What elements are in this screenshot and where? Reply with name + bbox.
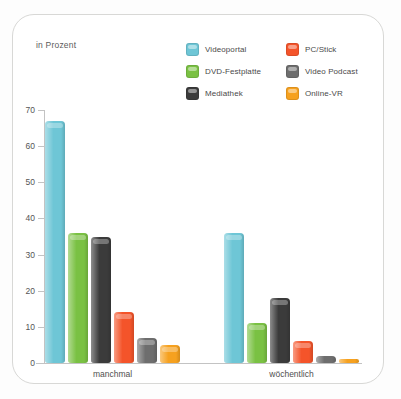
bar-manchmal-videoportal [45,121,65,363]
bar-wöchentlich-online-vr [339,359,359,363]
bar-manchmal-mediathek [91,237,111,364]
legend-item-dvd_festplatte: DVD-Festplatte [186,60,280,82]
bar-shadow [84,233,88,363]
x-axis-label-wöchentlich: wöchentlich [269,369,313,379]
legend-item-pc_stick: PC/Stick [286,38,380,60]
bar-shadow [263,323,267,363]
bar-manchmal-dvd-festplatte [68,233,88,363]
y-tick-mark [38,363,45,364]
bar-highlight [247,323,255,363]
legend-swatch-icon-online_vr [286,87,299,100]
unit-label: in Prozent [36,40,76,50]
y-tick-label: 60 [26,141,35,151]
bar-manchmal-pc-stick [114,312,134,363]
x-axis-label-manchmal: manchmal [93,369,132,379]
bar-shadow [309,341,313,363]
bar-cap [93,239,109,244]
y-tick-label: 30 [26,250,35,260]
bar-shadow [61,121,65,363]
chart-page: in Prozent VideoportalPC/StickDVD-Festpl… [0,0,401,399]
bar-wöchentlich-pc-stick [293,341,313,363]
bar-cap [162,347,178,352]
legend-swatch-icon-pc_stick [286,43,299,56]
bar-series-container [44,110,362,363]
legend-swatch-icon-mediathek [186,87,199,100]
bar-cap [226,235,242,240]
bar-shadow [332,356,336,363]
bar-shadow [153,338,157,363]
bar-shadow [240,233,244,363]
bar-shadow [355,359,359,363]
bar-wöchentlich-videoportal [224,233,244,363]
legend-item-video_podcast: Video Podcast [286,60,380,82]
legend-label: Video Podcast [305,67,358,76]
bar-highlight [160,345,168,363]
bar-highlight [270,298,278,363]
bar-manchmal-online-vr [160,345,180,363]
bar-cap [70,235,86,240]
bar-highlight [224,233,232,363]
legend-swatch-icon-dvd_festplatte [186,65,199,78]
legend-swatch-icon-video_podcast [286,65,299,78]
bar-cap [116,314,132,319]
bar-highlight [137,338,145,363]
legend-item-videoportal: Videoportal [186,38,280,60]
y-tick-label: 50 [26,177,35,187]
bar-cap [295,343,311,348]
bar-manchmal-video-podcast [137,338,157,363]
bar-highlight [293,341,301,363]
legend-label: Online-VR [305,89,343,98]
y-tick-label: 20 [26,286,35,296]
chart-legend: VideoportalPC/StickDVD-FestplatteVideo P… [186,38,386,104]
bar-highlight [68,233,76,363]
bar-shadow [286,298,290,363]
bar-cap [272,300,288,305]
bar-highlight [45,121,53,363]
bar-wöchentlich-dvd-festplatte [247,323,267,363]
bar-highlight [339,359,347,363]
y-tick-label: 70 [26,105,35,115]
x-axis-line [36,363,362,364]
bar-shadow [130,312,134,363]
legend-label: Videoportal [205,45,246,54]
bar-wöchentlich-mediathek [270,298,290,363]
bar-shadow [176,345,180,363]
bar-shadow [107,237,111,364]
bar-cap [139,340,155,345]
bar-cap [249,325,265,330]
bar-highlight [114,312,122,363]
legend-label: PC/Stick [305,45,336,54]
legend-item-mediathek: Mediathek [186,82,280,104]
bar-wöchentlich-video-podcast [316,356,336,363]
legend-label: DVD-Festplatte [205,67,261,76]
y-tick-label: 40 [26,213,35,223]
bar-highlight [316,356,324,363]
legend-swatch-icon-videoportal [186,43,199,56]
bar-cap [47,123,63,128]
bar-highlight [91,237,99,364]
y-tick-label: 10 [26,322,35,332]
legend-label: Mediathek [205,89,243,98]
legend-item-online_vr: Online-VR [286,82,380,104]
y-tick-label: 0 [30,358,35,368]
plot-area: 010203040506070 manchmalwöchentlich [44,110,362,363]
